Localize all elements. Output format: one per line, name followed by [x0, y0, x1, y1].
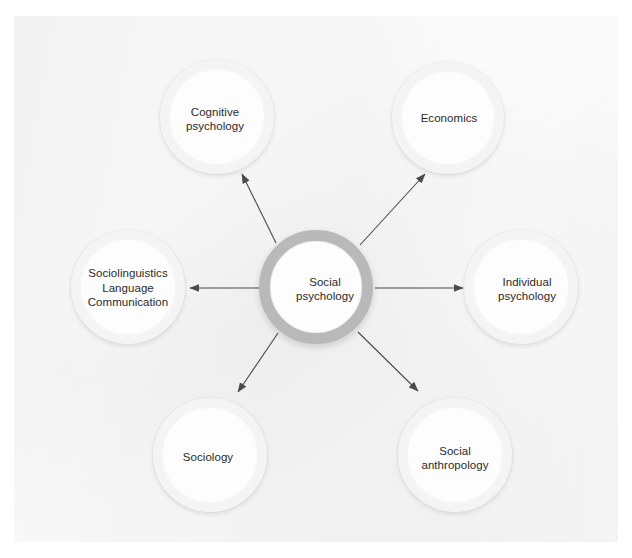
node-ring — [153, 398, 267, 512]
node-social-anthropology[interactable]: Social anthropology — [398, 398, 512, 512]
node-ring — [71, 230, 185, 344]
node-economics[interactable]: Economics — [392, 62, 504, 174]
node-sociology[interactable]: Sociology — [153, 398, 267, 512]
radial-diagram: Cognitive psychology Economics Socioling… — [0, 0, 632, 558]
hub-ring — [259, 230, 373, 344]
screenshot-root: Cognitive psychology Economics Socioling… — [0, 0, 632, 558]
node-ring — [398, 398, 512, 512]
node-cognitive-psychology[interactable]: Cognitive psychology — [160, 60, 274, 174]
node-ring — [160, 60, 274, 174]
node-ring — [392, 62, 504, 174]
edge-to-cognitive-psychology — [242, 174, 276, 243]
edge-to-economics — [360, 174, 425, 245]
node-social-psychology-hub[interactable]: Social psychology — [259, 230, 373, 344]
edge-to-sociology — [238, 333, 278, 392]
node-sociolinguistics[interactable]: Sociolinguistics Language Communication — [71, 230, 185, 344]
node-ring — [464, 230, 578, 344]
edge-to-social-anthropology — [358, 332, 418, 391]
node-individual-psychology[interactable]: Individual psychology — [464, 230, 578, 344]
